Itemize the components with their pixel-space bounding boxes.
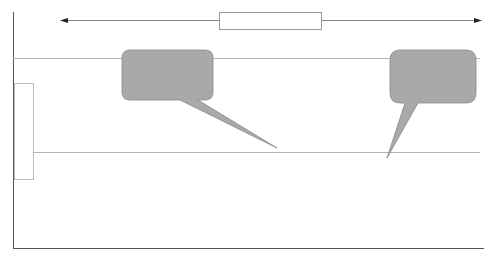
chart-canvas [0,0,493,275]
pstn-callout [122,50,277,148]
wireless-callout [387,50,476,158]
arrow-left-icon [60,18,68,23]
arrow-right-icon [474,18,482,23]
x-axis-title [219,12,322,30]
y-axis-label-box [14,83,34,180]
